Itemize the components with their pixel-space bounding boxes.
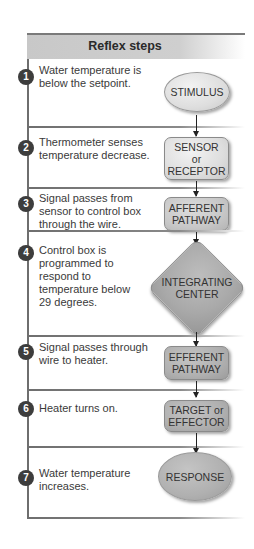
reflex-steps-table: Reflex steps 1 Water temperature is belo… [27, 33, 245, 519]
step-number-badge: 5 [18, 344, 34, 360]
table-header: Reflex steps [27, 33, 245, 59]
step-description: Thermometer senses temperature decrease. [39, 136, 154, 162]
step-number-badge: 6 [18, 401, 34, 417]
integrating-center-diamond: INTEGRATING CENTER [152, 242, 242, 334]
table-title: Reflex steps [27, 39, 223, 53]
shape-label-line1: EFFERENT [169, 351, 224, 363]
shape-label-line2: EFFECTOR [168, 416, 224, 428]
table-bottom-border [27, 517, 245, 519]
step-number-badge: 3 [18, 196, 34, 212]
step-number-badge: 7 [18, 470, 34, 486]
diamond-label: INTEGRATING CENTER [152, 242, 242, 334]
shape-label: STIMULUS [170, 86, 223, 98]
efferent-pathway-box: EFFERENT PATHWAY [164, 346, 229, 380]
step-number-badge: 2 [18, 140, 34, 156]
shape-label-line2: PATHWAY [172, 363, 221, 375]
step-description: Water temperature is below the setpoint. [39, 64, 154, 90]
target-effector-box: TARGET or EFFECTOR [164, 400, 229, 432]
step-description: Control box is programmed to respond to … [39, 244, 134, 309]
step-description: Signal passes through wire to heater. [39, 341, 154, 367]
step-description: Signal passes from sensor to control box… [39, 192, 154, 231]
step-description: Heater turns on. [39, 402, 154, 415]
shape-label-line1: SENSOR [174, 141, 218, 153]
response-ellipse: RESPONSE [158, 452, 232, 501]
stimulus-ellipse: STIMULUS [164, 72, 230, 112]
shape-label-line3: RECEPTOR [167, 165, 225, 177]
step-description: Water temperature increases. [39, 467, 154, 493]
afferent-pathway-box: AFFERENT PATHWAY [164, 197, 229, 231]
shape-label-line2: CENTER [175, 288, 218, 300]
step-number-badge: 1 [18, 69, 34, 85]
sensor-receptor-box: SENSOR or RECEPTOR [164, 137, 229, 180]
shape-label-line2: or [192, 153, 201, 165]
shape-label-line1: AFFERENT [169, 202, 224, 214]
shape-label: RESPONSE [166, 471, 224, 483]
step-number-badge: 4 [18, 245, 34, 261]
shape-label-line1: INTEGRATING [162, 276, 233, 288]
shape-label-line2: PATHWAY [172, 214, 221, 226]
shape-label-line1: TARGET or [170, 404, 224, 416]
